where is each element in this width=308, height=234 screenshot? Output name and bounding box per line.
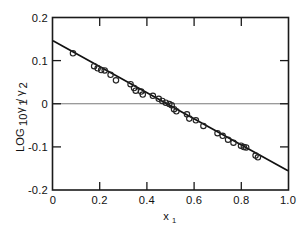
y-tick-label: -0.1 <box>28 141 48 153</box>
y-tick-label: 0 <box>42 98 48 110</box>
x-tick-label: 0.2 <box>92 194 108 206</box>
y-tick-label: 0.2 <box>32 12 48 24</box>
y-axis-label: LOG 10 γ 1 / γ 2 <box>14 82 29 152</box>
x-tick-label: 0.4 <box>139 194 155 206</box>
y-axis-label-slash: / <box>14 98 26 102</box>
chart-svg: 0.2 0.1 0 -0.1 -0.2 0 0.2 0.4 0.6 0.8 1.… <box>0 0 308 234</box>
chart-figure: 0.2 0.1 0 -0.1 -0.2 0 0.2 0.4 0.6 0.8 1.… <box>0 0 308 234</box>
y-axis-label-numerator: γ <box>14 107 26 113</box>
y-axis-label-log-sub: 10 <box>17 114 29 126</box>
y-axis-ticks-right <box>280 61 288 147</box>
x-tick-label: 0.6 <box>186 194 202 206</box>
x-axis-label-main: x <box>163 210 169 222</box>
y-tick-label: -0.2 <box>28 184 48 196</box>
y-axis-ticks <box>53 61 61 147</box>
x-axis-ticks <box>100 182 242 190</box>
y-axis-label-denominator-sub: 2 <box>17 82 29 88</box>
linear-fit-line <box>53 41 288 171</box>
x-axis-label: x 1 <box>163 210 176 225</box>
y-axis-label-denominator: γ <box>14 90 26 96</box>
x-axis-tick-labels: 0 0.2 0.4 0.6 0.8 1.0 <box>50 194 296 206</box>
y-tick-label: 0.1 <box>32 55 48 67</box>
x-axis-label-sub: 1 <box>172 216 176 225</box>
x-tick-label: 0 <box>50 194 56 206</box>
x-tick-label: 1.0 <box>280 194 296 206</box>
y-axis-label-log: LOG <box>14 128 26 152</box>
x-axis-ticks-top <box>100 18 242 26</box>
x-tick-label: 0.8 <box>233 194 249 206</box>
data-point <box>113 78 118 83</box>
y-axis-tick-labels: 0.2 0.1 0 -0.1 -0.2 <box>28 12 48 197</box>
